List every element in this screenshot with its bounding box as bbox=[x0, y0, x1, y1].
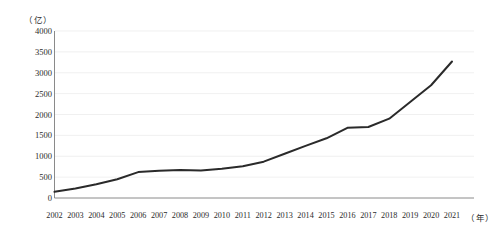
x-tick-label: 2021 bbox=[444, 211, 460, 220]
data-series-group bbox=[55, 61, 453, 191]
x-tick-label: 2007 bbox=[151, 211, 167, 220]
x-tick-label: 2015 bbox=[318, 211, 334, 220]
line-chart: （亿） 05001000150020002500300035004000 200… bbox=[0, 0, 499, 234]
x-tick-label: 2003 bbox=[67, 211, 83, 220]
x-tick-label: 2009 bbox=[193, 211, 209, 220]
plot-area bbox=[0, 0, 499, 234]
x-tick-label: 2016 bbox=[339, 211, 355, 220]
x-tick-label: 2002 bbox=[46, 211, 62, 220]
x-tick-label: 2020 bbox=[423, 211, 439, 220]
x-tick-label: 2010 bbox=[214, 211, 230, 220]
x-tick-label: 2018 bbox=[381, 211, 397, 220]
x-tick-label: 2014 bbox=[297, 211, 313, 220]
x-tick-label: 2008 bbox=[172, 211, 188, 220]
gridlines bbox=[55, 31, 475, 177]
x-tick-label: 2019 bbox=[402, 211, 418, 220]
x-tick-label: 2012 bbox=[256, 211, 272, 220]
x-tick-label: 2004 bbox=[88, 211, 104, 220]
x-tick-label: 2013 bbox=[276, 211, 292, 220]
x-tick-label: 2017 bbox=[360, 211, 376, 220]
x-tick-label: 2006 bbox=[130, 211, 146, 220]
x-tick-label: 2005 bbox=[109, 211, 125, 220]
x-tick-label: 2011 bbox=[235, 211, 251, 220]
x-axis-unit-label: （年） bbox=[466, 211, 495, 223]
data-line-1 bbox=[55, 61, 453, 191]
